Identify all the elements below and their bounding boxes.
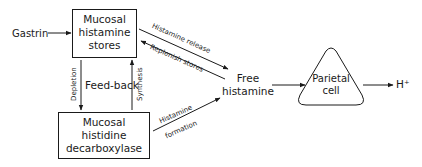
free-histamine-label: Free histamine (222, 72, 274, 98)
depletion-label: Depletion (70, 67, 78, 101)
gastrin-label: Gastrin (12, 28, 48, 39)
histamine-stores-line-3: stores (72, 39, 137, 52)
free-histamine-line-1: Free (222, 72, 274, 85)
histidine-decarboxylase-line-1: Mucosal (58, 116, 150, 129)
synthesis-label: Synthesis (136, 67, 144, 101)
h-plus-label: H⁺ (396, 79, 409, 90)
histidine-decarboxylase-label: Mucosal histidine decarboxylase (58, 116, 150, 155)
parietal-cell-line-2: cell (306, 85, 356, 97)
histamine-stores-line-2: histamine (72, 26, 137, 39)
histamine-stores-label: Mucosal histamine stores (72, 13, 137, 52)
free-histamine-line-2: histamine (222, 85, 274, 98)
parietal-cell-line-1: Parietal (306, 73, 356, 85)
histamine-stores-line-1: Mucosal (72, 13, 137, 26)
parietal-cell-label: Parietal cell (306, 73, 356, 97)
gastric-histamine-diagram: Gastrin Mucosal histamine stores Mucosal… (0, 0, 422, 167)
feedback-label: Feed-back (85, 80, 139, 91)
histidine-decarboxylase-line-2: histidine (58, 129, 150, 142)
histidine-decarboxylase-line-3: decarboxylase (58, 142, 150, 155)
